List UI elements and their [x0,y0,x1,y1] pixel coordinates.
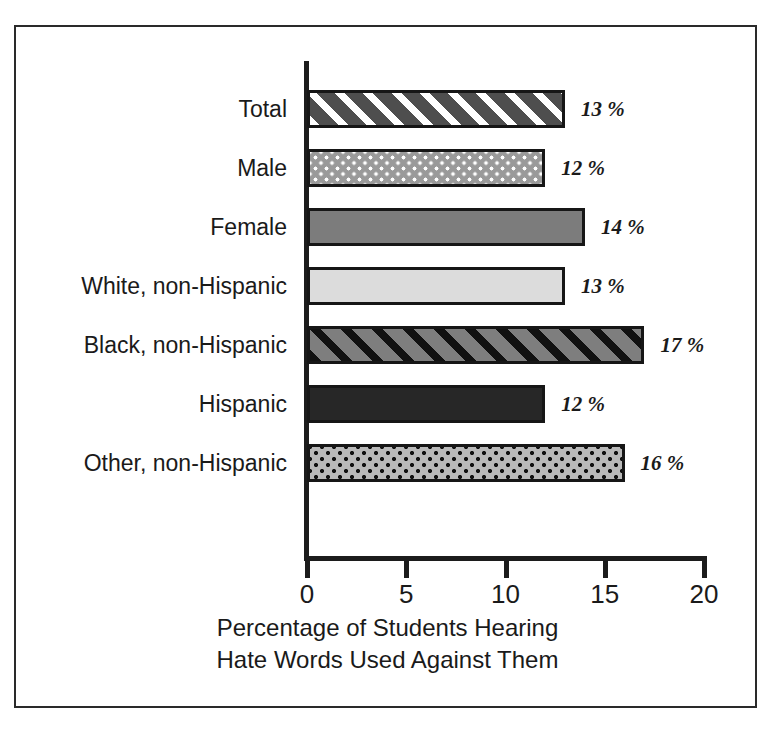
plot-area: 05101520 Total13 %Male12 %Female14 %Whit… [16,27,759,710]
bar-female[interactable] [307,208,585,246]
top-caption-fragment [0,0,770,14]
value-label-male: 12 % [561,156,605,181]
value-label-total: 13 % [581,97,625,122]
bar-hispanic[interactable] [307,385,545,423]
bar-row: Hispanic12 % [16,385,759,423]
bar-row: White, non-Hispanic13 % [16,267,759,305]
category-label-black-non-hispanic: Black, non-Hispanic [84,332,287,359]
x-tick-label-20: 20 [674,579,734,610]
value-label-female: 14 % [601,215,645,240]
category-label-total: Total [238,96,287,123]
bar-row: Black, non-Hispanic17 % [16,326,759,364]
category-label-male: Male [237,155,287,182]
x-tick-5 [404,556,409,578]
value-label-other-non-hispanic: 16 % [641,451,685,476]
category-label-female: Female [210,214,287,241]
bar-row: Female14 % [16,208,759,246]
bar-row: Total13 % [16,90,759,128]
bar-other-non-hispanic[interactable] [307,444,625,482]
x-axis-title-line-1: Percentage of Students Hearing [16,612,759,644]
bar-total[interactable] [307,90,565,128]
figure-frame: 05101520 Total13 %Male12 %Female14 %Whit… [14,25,757,708]
bar-black-non-hispanic[interactable] [307,326,644,364]
bar-white-non-hispanic[interactable] [307,267,565,305]
value-label-white-non-hispanic: 13 % [581,274,625,299]
y-axis-line [304,61,309,561]
x-tick-label-15: 15 [575,579,635,610]
category-label-other-non-hispanic: Other, non-Hispanic [84,450,287,477]
category-label-hispanic: Hispanic [199,391,287,418]
x-tick-10 [504,556,509,578]
category-label-white-non-hispanic: White, non-Hispanic [81,273,287,300]
x-tick-label-5: 5 [376,579,436,610]
x-tick-label-0: 0 [277,579,337,610]
x-axis-title-line-2: Hate Words Used Against Them [16,644,759,676]
x-tick-20 [702,556,707,578]
value-label-hispanic: 12 % [561,392,605,417]
x-tick-0 [305,556,310,578]
x-axis-title: Percentage of Students Hearing Hate Word… [16,612,759,676]
x-tick-label-10: 10 [476,579,536,610]
bar-row: Male12 % [16,149,759,187]
x-tick-15 [603,556,608,578]
bar-row: Other, non-Hispanic16 % [16,444,759,482]
bar-male[interactable] [307,149,545,187]
value-label-black-non-hispanic: 17 % [660,333,704,358]
